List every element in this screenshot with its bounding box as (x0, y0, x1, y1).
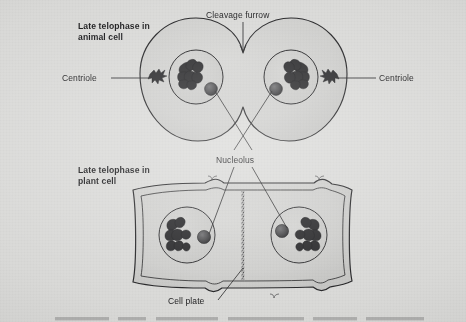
cleavage-furrow-label: Cleavage furrow (206, 10, 269, 21)
cell-plate-label: Cell plate (168, 296, 204, 307)
plant-cell-title-line2: plant cell (78, 176, 116, 186)
nucleolus-plant-right (275, 224, 288, 237)
telophase-figure: Late telophase in animal cell Cleavage f… (0, 0, 466, 322)
nucleolus-animal-right (270, 83, 283, 96)
leader-cleavage-furrow (240, 22, 246, 52)
centriole-right-label: Centriole (379, 73, 414, 84)
cell-plate (241, 191, 244, 280)
plant-nucleus-left-group (159, 207, 215, 263)
plant-cell-title-line1: Late telophase in (78, 165, 150, 175)
caption-cropped-row (55, 317, 424, 320)
animal-cell-title-line2: animal cell (78, 32, 123, 42)
centriole-left-label: Centriole (62, 73, 97, 84)
animal-cell-title: Late telophase in animal cell (78, 21, 150, 42)
nucleolus-plant-left (197, 230, 210, 243)
plant-cell-title: Late telophase in plant cell (78, 165, 150, 186)
plant-cell-group (133, 167, 352, 300)
animal-cell-title-line1: Late telophase in (78, 21, 150, 31)
nucleolus-label: Nucleolus (216, 155, 254, 166)
animal-cell-group (111, 18, 376, 150)
nucleolus-animal-left (205, 83, 218, 96)
